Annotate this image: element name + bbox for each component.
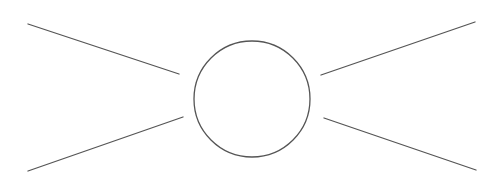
central-circle-node <box>194 41 310 157</box>
diagram-canvas <box>0 0 500 181</box>
ray-top-left <box>28 24 179 74</box>
ray-bottom-right <box>324 118 476 170</box>
ray-bottom-left <box>28 117 183 171</box>
ray-top-right <box>321 22 475 75</box>
